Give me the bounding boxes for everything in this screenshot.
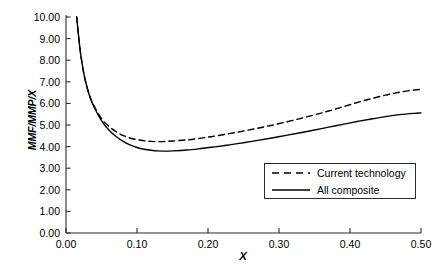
y-tick-label: 7.00 bbox=[18, 77, 60, 88]
x-tick-label: 0.10 bbox=[127, 239, 147, 250]
y-tick-label: 1.00 bbox=[18, 206, 60, 217]
y-tick-label: 8.00 bbox=[18, 55, 60, 66]
legend-item-0: Current technology bbox=[265, 164, 415, 181]
x-tick-label: 0.20 bbox=[198, 239, 218, 250]
chart-legend: Current technology All composite bbox=[264, 163, 416, 199]
y-tick-label: 3.00 bbox=[18, 163, 60, 174]
legend-dashed-line-icon bbox=[271, 168, 311, 178]
x-tick-label: 0.00 bbox=[56, 239, 76, 250]
x-tick-label: 0.40 bbox=[340, 239, 360, 250]
chart-figure: MMF/MMP/X X 0.001.002.003.004.005.006.00… bbox=[0, 0, 440, 274]
y-axis-ticks bbox=[66, 17, 71, 233]
series-line-0 bbox=[77, 17, 421, 142]
legend-solid-line-icon bbox=[271, 185, 311, 195]
legend-item-1: All composite bbox=[265, 181, 415, 198]
x-tick-label: 0.30 bbox=[269, 239, 289, 250]
x-tick-label: 0.50 bbox=[411, 239, 431, 250]
y-tick-label: 4.00 bbox=[18, 141, 60, 152]
x-axis-label: X bbox=[239, 250, 247, 262]
y-tick-label: 2.00 bbox=[18, 185, 60, 196]
y-tick-label: 6.00 bbox=[18, 98, 60, 109]
y-axis-label-container: MMF/MMP/X bbox=[0, 0, 20, 240]
axis-lines bbox=[66, 15, 421, 233]
y-tick-label: 5.00 bbox=[18, 120, 60, 131]
series-line-1 bbox=[77, 17, 421, 151]
y-tick-label: 9.00 bbox=[18, 33, 60, 44]
y-tick-label: 0.00 bbox=[18, 228, 60, 239]
y-tick-label: 10.00 bbox=[18, 12, 60, 23]
plot-canvas bbox=[0, 0, 440, 274]
x-axis-ticks bbox=[66, 228, 421, 233]
legend-label-0: Current technology bbox=[311, 167, 406, 179]
legend-label-1: All composite bbox=[311, 184, 379, 196]
data-series-group bbox=[77, 17, 421, 151]
